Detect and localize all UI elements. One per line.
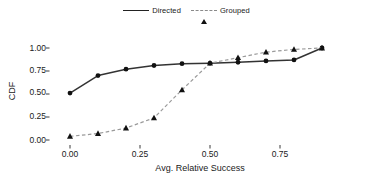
plot-panel: 1.00 0.75 0.50 0.25 0.00 0.00 0.25 0.50 … [0, 0, 373, 184]
chart-figure: Directed Grouped 1.00 0.75 0.50 0.25 0.0… [0, 0, 373, 184]
datapoint-circle-3 [152, 63, 157, 68]
data-series-layer [67, 45, 325, 139]
ytick-label-025: 0.25 [12, 112, 46, 121]
y-axis-label: CDF [7, 71, 17, 111]
ytick-label-000: 0.00 [12, 136, 46, 145]
xtick-label-000: 0.00 [50, 150, 90, 159]
datapoint-circle-6 [236, 60, 241, 65]
series-line-grouped [70, 48, 322, 136]
datapoint-circle-2 [124, 67, 129, 72]
ytick-label-075: 0.75 [12, 66, 46, 75]
series-directed [68, 46, 325, 96]
datapoint-circle-0 [68, 91, 73, 96]
series-grouped [67, 45, 325, 139]
xtick-label-025: 0.25 [120, 150, 160, 159]
datapoint-circle-4 [180, 61, 185, 66]
ytick-label-050: 0.50 [12, 88, 46, 97]
ytick-label-100: 1.00 [12, 44, 46, 53]
datapoint-triangle-3 [151, 115, 157, 121]
xtick-label-075: 0.75 [260, 150, 300, 159]
datapoint-circle-1 [96, 73, 101, 78]
datapoint-triangle-2 [123, 125, 129, 131]
datapoint-circle-7 [264, 58, 269, 63]
xtick-label-050: 0.50 [190, 150, 230, 159]
datapoint-circle-8 [292, 58, 297, 63]
series-line-directed [70, 48, 322, 93]
x-axis-label: Avg. Relative Success [40, 163, 360, 173]
axis-tick-marks [46, 48, 280, 149]
